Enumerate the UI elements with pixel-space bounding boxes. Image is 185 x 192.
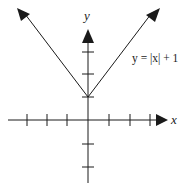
left-branch-arrow-icon [17, 8, 30, 21]
y-axis-label: y [82, 8, 90, 23]
graph-left-branch [25, 14, 88, 97]
function-label: y = |x| + 1 [132, 52, 179, 65]
y-axis-arrow-icon [82, 29, 94, 43]
graph-canvas: x y y = |x| + 1 [0, 0, 185, 192]
x-axis-label: x [170, 112, 177, 127]
x-axis-arrow-icon [156, 114, 168, 126]
right-branch-arrow-icon [146, 8, 160, 22]
